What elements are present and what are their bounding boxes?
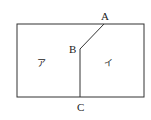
point-c-label: C	[77, 101, 84, 113]
region-a-label: ア	[37, 58, 46, 68]
dividing-line-abc	[80, 24, 104, 97]
point-b-label: B	[69, 43, 76, 55]
region-i-label: イ	[104, 58, 113, 68]
diagram: A B C ア イ	[0, 0, 151, 120]
point-a-label: A	[101, 10, 109, 22]
